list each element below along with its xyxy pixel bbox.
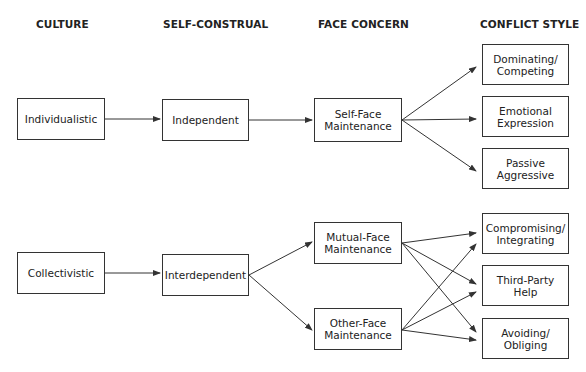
box-other-face-maintenance: Other-Face Maintenance bbox=[314, 308, 402, 350]
box-label-line2: Maintenance bbox=[324, 243, 392, 255]
arrow-otherface-thirdparty bbox=[402, 292, 476, 330]
box-label: Interdependent bbox=[165, 269, 246, 281]
box-dominating-competing: Dominating/ Competing bbox=[482, 44, 569, 85]
box-collectivistic: Collectivistic bbox=[17, 252, 105, 294]
box-label-line1: Other-Face bbox=[330, 317, 387, 329]
arrow-selfface-emotional bbox=[402, 119, 476, 120]
box-avoiding-obliging: Avoiding/ Obliging bbox=[482, 318, 569, 359]
box-independent: Independent bbox=[162, 99, 249, 141]
box-label-line1: Self-Face bbox=[335, 108, 382, 120]
arrow-mutualface-compromising bbox=[402, 233, 476, 243]
arrow-selfface-passive bbox=[402, 120, 476, 171]
box-label: Independent bbox=[172, 114, 239, 126]
arrow-selfface-dominating bbox=[402, 67, 476, 120]
box-label-line1: Third-Party bbox=[497, 274, 555, 286]
box-label-line1: Passive bbox=[506, 157, 545, 169]
box-label-line2: Expression bbox=[497, 117, 554, 129]
box-label-line1: Mutual-Face bbox=[326, 231, 389, 243]
box-label-line1: Avoiding/ bbox=[501, 327, 550, 339]
box-label: Individualistic bbox=[25, 113, 97, 125]
box-emotional-expression: Emotional Expression bbox=[482, 96, 569, 137]
box-label: Collectivistic bbox=[28, 267, 94, 279]
box-label-line2: Maintenance bbox=[324, 329, 392, 341]
arrow-otherface-avoiding bbox=[402, 330, 476, 340]
box-label-line1: Compromising/ bbox=[486, 222, 566, 234]
arrow-interdependent-mutualface bbox=[249, 242, 312, 275]
box-individualistic: Individualistic bbox=[17, 98, 105, 140]
box-label-line2: Help bbox=[514, 286, 538, 298]
box-third-party-help: Third-Party Help bbox=[482, 265, 569, 306]
box-interdependent: Interdependent bbox=[162, 254, 249, 296]
box-label-line2: Aggressive bbox=[497, 169, 555, 181]
box-label-line1: Dominating/ bbox=[493, 53, 558, 65]
box-compromising-integrating: Compromising/ Integrating bbox=[482, 213, 569, 254]
arrow-mutualface-thirdparty bbox=[402, 243, 476, 284]
box-label-line2: Competing bbox=[497, 65, 554, 77]
box-self-face-maintenance: Self-Face Maintenance bbox=[314, 98, 402, 142]
box-mutual-face-maintenance: Mutual-Face Maintenance bbox=[314, 222, 402, 264]
box-label-line2: Maintenance bbox=[324, 120, 392, 132]
box-passive-aggressive: Passive Aggressive bbox=[482, 148, 569, 189]
box-label-line2: Integrating bbox=[496, 234, 554, 246]
box-label-line1: Emotional bbox=[499, 105, 552, 117]
box-label-line2: Obliging bbox=[504, 339, 548, 351]
arrow-interdependent-otherface bbox=[249, 275, 312, 330]
